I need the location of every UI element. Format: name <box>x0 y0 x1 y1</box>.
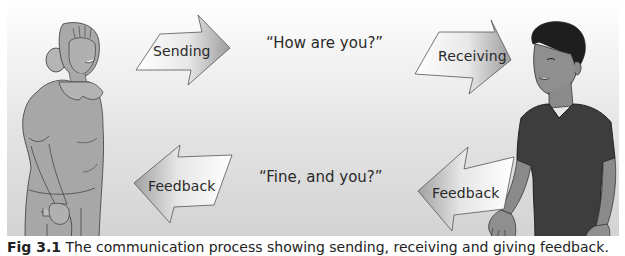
feedback-arrow-left: Feedback <box>134 145 244 225</box>
feedback-arrow-right: Feedback <box>418 147 518 231</box>
figure-caption: Fig 3.1 The communication process showin… <box>7 238 625 256</box>
woman-illustration <box>7 18 117 236</box>
message-fine-and-you: “Fine, and you?” <box>259 168 383 186</box>
caption-label: Fig 3.1 <box>7 239 61 255</box>
sending-label: Sending <box>153 43 211 59</box>
feedback-label-right: Feedback <box>432 185 499 201</box>
feedback-label-left: Feedback <box>148 178 215 194</box>
sender-figure <box>7 18 117 236</box>
caption-text: The communication process showing sendin… <box>66 239 609 255</box>
diagram-panel: Sending “How are you?” Receiving <box>7 0 619 236</box>
message-how-are-you: “How are you?” <box>266 34 383 52</box>
sending-arrow: Sending <box>136 14 234 90</box>
